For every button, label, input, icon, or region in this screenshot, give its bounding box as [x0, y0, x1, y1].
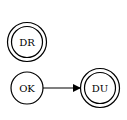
node-dr[interactable]: DR — [8, 23, 47, 62]
node-du-label: DU — [92, 83, 108, 94]
state-diagram: DR OK DU — [0, 0, 127, 120]
node-ok[interactable]: OK — [11, 72, 43, 104]
node-ok-label: OK — [19, 83, 35, 94]
node-dr-label: DR — [19, 37, 35, 48]
node-du[interactable]: DU — [81, 69, 120, 108]
